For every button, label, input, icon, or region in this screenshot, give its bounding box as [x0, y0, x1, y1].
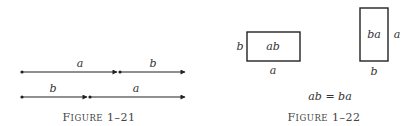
caption-figure-1-21: FIGURE 1–21: [62, 111, 135, 124]
area-label-ab: ab: [266, 40, 280, 53]
figure-1-22: ab b a ba a b ab = ba FIGURE 1–22: [236, 8, 400, 124]
figure-1-21: a b b a FIGURE 1–21: [20, 57, 185, 124]
side-label-a: a: [394, 28, 401, 41]
rectangle-ab: ab b a: [236, 32, 300, 77]
label-b: b: [49, 82, 56, 95]
label-a: a: [133, 82, 140, 95]
label-a: a: [77, 57, 84, 70]
side-label-b: b: [236, 40, 243, 53]
rectangle-ba: ba a b: [360, 8, 400, 78]
figure-canvas: a b b a FIGURE 1–21 ab b a: [0, 0, 416, 126]
arrow-row-1: a b: [20, 57, 185, 74]
figures-svg: a b b a FIGURE 1–21 ab b a: [0, 0, 416, 126]
bottom-label-a: a: [270, 64, 277, 77]
equation-ab-equals-ba: ab = ba: [308, 90, 351, 103]
caption-figure-1-22: FIGURE 1–22: [287, 111, 360, 124]
arrow-row-2: b a: [20, 82, 185, 99]
bottom-label-b: b: [370, 65, 377, 78]
label-b: b: [149, 57, 156, 70]
area-label-ba: ba: [367, 28, 381, 41]
